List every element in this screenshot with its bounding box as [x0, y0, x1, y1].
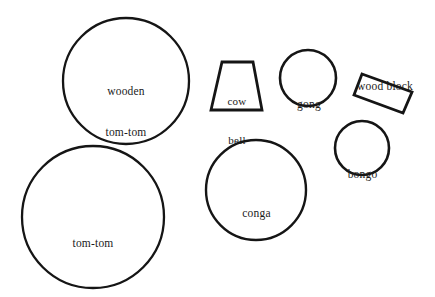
shape-tom-tom	[22, 146, 164, 288]
percussion-shape-diagram: wooden tom-tom tom-tom cow bell gong woo…	[0, 0, 435, 297]
shape-wooden-tom-tom	[63, 18, 189, 144]
shape-conga	[206, 140, 306, 240]
shape-cow-bell	[211, 62, 262, 110]
shape-wood-block	[354, 74, 412, 113]
shape-gong	[280, 50, 336, 106]
diagram-canvas	[0, 0, 435, 297]
shape-bongo	[335, 121, 389, 175]
